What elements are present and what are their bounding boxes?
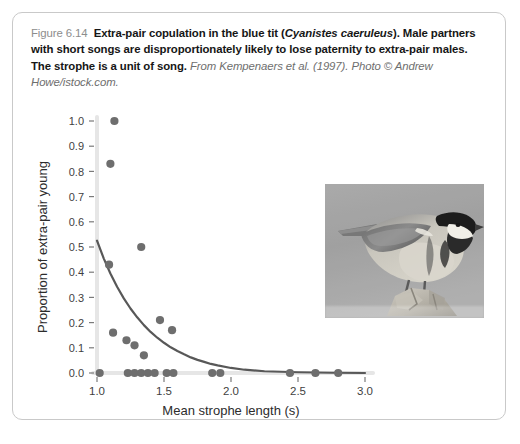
data-point — [137, 243, 145, 251]
y-axis-tick-label: 0.2 — [69, 317, 84, 329]
data-point — [311, 369, 319, 377]
data-point — [106, 160, 114, 168]
data-point — [110, 117, 118, 125]
y-axis-tick-label: 0.3 — [69, 292, 84, 304]
y-axis-tick-label: 0.9 — [69, 140, 84, 152]
y-axis-tick-label: 0.1 — [69, 342, 84, 354]
y-axis-title: Proportion of extra-pair young — [35, 161, 50, 333]
y-axis-tick-label: 1.0 — [69, 115, 84, 127]
figure-number: Figure 6.14 — [31, 27, 88, 39]
bird-photo — [325, 184, 484, 318]
x-axis-tick-label: 3.0 — [357, 385, 373, 397]
y-axis-tick-label: 0.5 — [69, 241, 84, 253]
y-axis-tick-label: 0.6 — [69, 216, 84, 228]
data-point — [122, 336, 130, 344]
x-axis-tick-label: 2.5 — [290, 385, 306, 397]
data-point — [169, 369, 177, 377]
y-axis-tick-label: 0.8 — [69, 166, 84, 178]
bird-photo-image — [325, 184, 484, 318]
y-axis-tick-label: 0.0 — [69, 367, 84, 379]
data-point — [168, 326, 176, 334]
figure-body: 0.00.10.20.30.40.50.60.70.80.91.01.01.52… — [13, 109, 505, 419]
y-axis-tick-label: 0.7 — [69, 191, 84, 203]
data-point — [334, 369, 342, 377]
data-point — [109, 329, 117, 337]
x-axis-title: Mean strophe length (s) — [162, 403, 299, 418]
x-axis-tick-label: 1.5 — [156, 385, 172, 397]
data-point — [140, 351, 148, 359]
data-point — [105, 261, 113, 269]
x-axis-tick-label: 1.0 — [89, 385, 105, 397]
caption-bold-part-1: Extra-pair copulation in the blue tit ( — [94, 27, 285, 39]
x-axis-tick-label: 2.0 — [223, 385, 239, 397]
data-point — [151, 369, 159, 377]
data-point — [216, 369, 224, 377]
data-point — [208, 369, 216, 377]
data-point — [286, 369, 294, 377]
y-axis-tick-label: 0.4 — [69, 266, 84, 278]
figure-card: Figure 6.14 Extra-pair copulation in the… — [12, 12, 506, 420]
data-point — [156, 316, 164, 324]
data-point — [130, 341, 138, 349]
figure-caption: Figure 6.14 Extra-pair copulation in the… — [31, 25, 483, 90]
caption-species-name: Cyanistes caeruleus — [285, 27, 393, 39]
data-point — [96, 369, 104, 377]
